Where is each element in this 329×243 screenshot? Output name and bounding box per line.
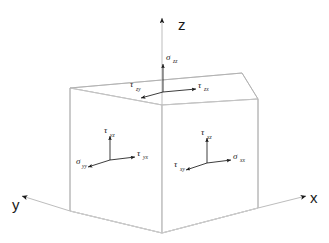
x-axis-line <box>258 196 306 208</box>
stress-tensor-figure: z x y σ zz τ zx τ zy <box>0 0 329 243</box>
sigma-zz-label: σ zz <box>166 52 178 64</box>
svg-text:σ: σ <box>76 156 81 166</box>
svg-text:zx: zx <box>203 86 209 92</box>
svg-text:zz: zz <box>172 58 178 64</box>
z-axis-label: z <box>178 16 186 33</box>
svg-text:yz: yz <box>109 132 115 138</box>
svg-text:yy: yy <box>81 163 87 169</box>
svg-text:xy: xy <box>179 166 185 172</box>
svg-text:yx: yx <box>142 154 148 160</box>
cube-left-face <box>70 88 162 233</box>
x-axis-label: x <box>310 189 318 206</box>
svg-text:xx: xx <box>239 157 245 163</box>
cube-wireframe <box>70 73 258 233</box>
svg-text:xz: xz <box>206 134 212 140</box>
svg-text:σ: σ <box>166 52 171 62</box>
y-axis-line <box>22 196 70 211</box>
svg-text:zy: zy <box>135 86 141 92</box>
svg-text:σ: σ <box>233 151 238 161</box>
y-axis-label: y <box>12 196 20 213</box>
